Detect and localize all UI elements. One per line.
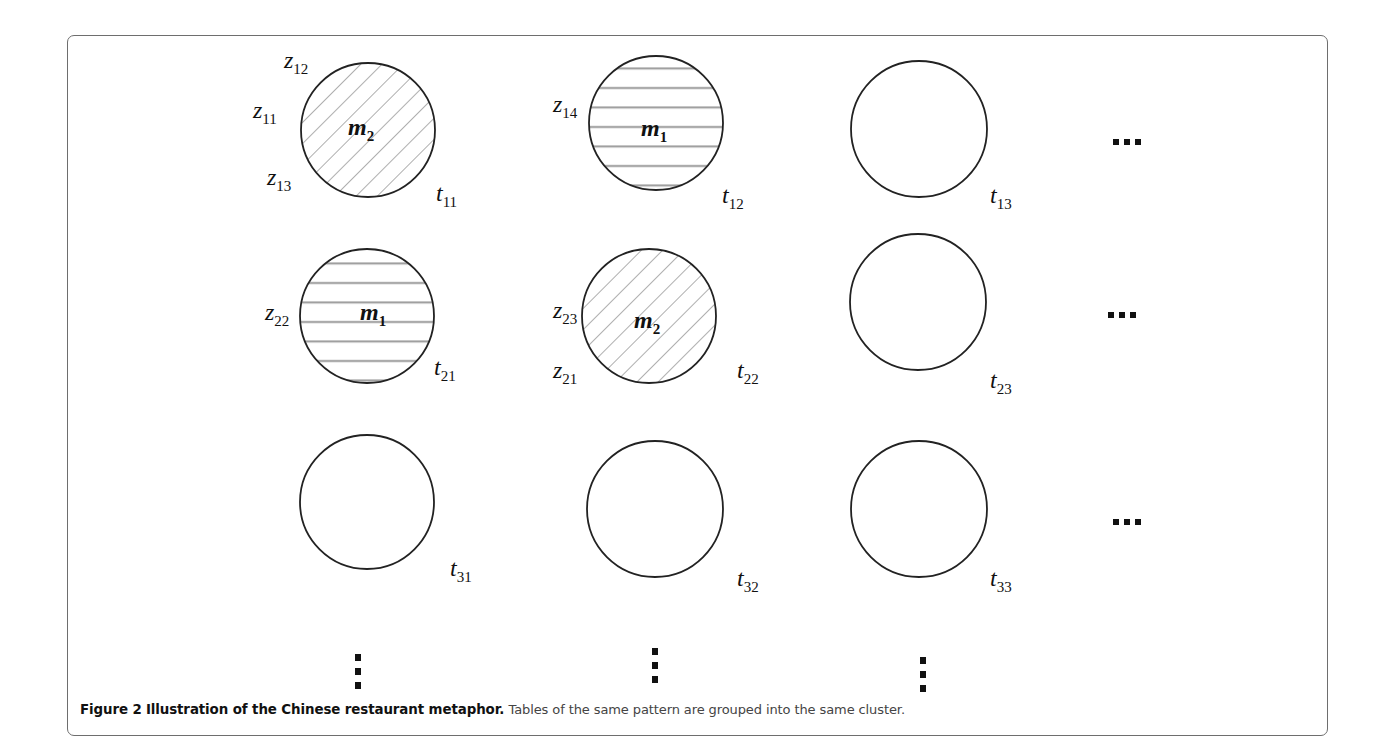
customer-label: z11 — [252, 97, 277, 127]
table-label: t31 — [450, 555, 472, 585]
table-t23: t23 — [850, 234, 1012, 397]
table-circle-empty — [587, 441, 723, 577]
ellipsis-vertical-col-2 — [652, 648, 658, 683]
table-t31: t31 — [300, 435, 472, 585]
table-t13: t13 — [851, 61, 1012, 212]
customer-label: z22 — [264, 299, 289, 329]
table-label: t13 — [990, 182, 1012, 212]
table-circle-empty — [850, 234, 986, 370]
table-label: t33 — [990, 565, 1012, 595]
table-label: t22 — [737, 357, 759, 387]
table-label: t23 — [990, 367, 1012, 397]
ellipsis-horizontal-row-1 — [1113, 139, 1141, 145]
customer-label: z23 — [552, 297, 577, 327]
table-label: t21 — [434, 354, 456, 384]
customer-label: z12 — [283, 47, 308, 77]
restaurant-diagram: m2 z12 z11 z13 t11 m1 z14 t12 t13 m1 z22… — [0, 0, 1392, 754]
table-t11: m2 z12 z11 z13 t11 — [252, 47, 457, 210]
table-circle-empty — [300, 435, 434, 569]
caption-text: Tables of the same pattern are grouped i… — [508, 702, 904, 717]
ellipsis-vertical-col-1 — [355, 654, 361, 689]
ellipsis-horizontal-row-2 — [1108, 312, 1136, 318]
ellipsis-horizontal-row-3 — [1113, 519, 1141, 525]
customer-label: z21 — [552, 357, 577, 387]
customer-label: z14 — [552, 91, 578, 121]
caption-title: Illustration of the Chinese restaurant m… — [146, 702, 504, 717]
table-circle-empty — [851, 441, 987, 577]
customer-label: z13 — [266, 164, 291, 194]
table-label: t11 — [436, 180, 457, 210]
figure-caption: Figure 2 Illustration of the Chinese res… — [80, 702, 1320, 717]
table-t33: t33 — [851, 441, 1012, 595]
caption-label: Figure 2 — [80, 702, 142, 717]
ellipsis-vertical-col-3 — [920, 657, 926, 692]
table-circle-empty — [851, 61, 987, 197]
table-t32: t32 — [587, 441, 759, 595]
table-t12: m1 z14 t12 — [552, 56, 744, 212]
table-label: t32 — [737, 565, 759, 595]
table-t22: m2 z23 z21 t22 — [552, 249, 759, 387]
table-t21: m1 z22 t21 — [264, 249, 456, 384]
table-label: t12 — [722, 182, 744, 212]
